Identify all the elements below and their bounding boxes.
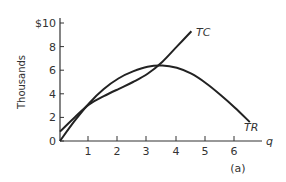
cost-revenue-chart: 0 2 4 6 8 $10 1 2 3 4 5 6 q Thousands (a…	[0, 0, 286, 182]
x-ticks	[88, 136, 234, 141]
tr-label: TR	[244, 121, 258, 134]
x-axis-label: q	[266, 135, 273, 148]
tr-curve	[60, 65, 250, 141]
svg-text:4: 4	[49, 88, 56, 101]
svg-text:8: 8	[49, 41, 56, 54]
svg-text:$10: $10	[35, 17, 56, 30]
tc-label: TC	[196, 26, 211, 39]
svg-text:5: 5	[202, 145, 209, 158]
svg-text:6: 6	[49, 64, 56, 77]
svg-text:1: 1	[85, 145, 92, 158]
svg-text:3: 3	[143, 145, 150, 158]
svg-text:6: 6	[231, 145, 238, 158]
svg-text:2: 2	[114, 145, 121, 158]
y-tick-labels: 0 2 4 6 8 $10	[35, 17, 56, 148]
svg-text:2: 2	[49, 111, 56, 124]
panel-label: (a)	[230, 162, 245, 175]
tc-curve	[60, 31, 191, 131]
svg-text:4: 4	[173, 145, 180, 158]
y-axis-label: Thousands	[16, 55, 27, 110]
svg-text:0: 0	[49, 135, 56, 148]
x-tick-labels: 1 2 3 4 5 6	[85, 145, 238, 158]
